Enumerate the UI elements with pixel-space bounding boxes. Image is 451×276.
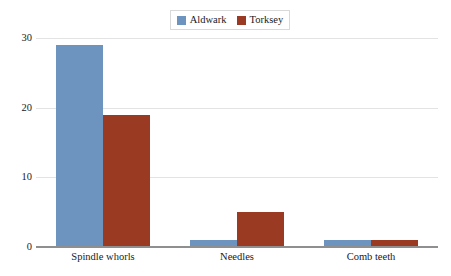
legend-swatch-torksey [237, 16, 246, 25]
x-axis-tick-label: Spindle whorls [36, 252, 170, 263]
y-axis-tick-label: 10 [2, 172, 32, 183]
plot-area [36, 38, 438, 247]
bar [56, 45, 103, 247]
y-axis-tick-label: 20 [2, 103, 32, 114]
legend-entry-torksey: Torksey [237, 15, 284, 26]
x-axis-line [36, 246, 438, 248]
y-axis-tick-label: 0 [2, 242, 32, 253]
legend-label-torksey: Torksey [250, 15, 284, 26]
y-axis: 0102030 [0, 38, 32, 247]
legend-entry-aldwark: Aldwark [177, 15, 227, 26]
chart-legend: Aldwark Torksey [170, 10, 290, 30]
legend-label-aldwark: Aldwark [190, 15, 227, 26]
x-axis-labels: Spindle whorlsNeedlesComb teeth [36, 252, 438, 272]
bar-chart: Aldwark Torksey 0102030 Spindle whorlsNe… [0, 0, 451, 276]
x-axis-tick-label: Needles [170, 252, 304, 263]
y-axis-tick-label: 30 [2, 33, 32, 44]
x-axis-tick-label: Comb teeth [304, 252, 438, 263]
bar-series-container [36, 38, 438, 247]
bar [103, 115, 150, 247]
legend-swatch-aldwark [177, 16, 186, 25]
bar [237, 212, 284, 247]
